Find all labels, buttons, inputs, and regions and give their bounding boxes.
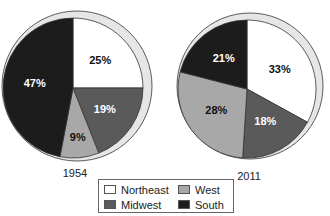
legend-swatch-northeast: [104, 185, 116, 194]
data-label-south: 21%: [213, 52, 235, 64]
legend-label: South: [195, 199, 224, 211]
legend-item-midwest: Midwest: [104, 197, 178, 212]
legend-item-south: South: [178, 197, 238, 212]
legend: Northeast West Midwest South: [98, 179, 234, 213]
legend-swatch-south: [178, 200, 190, 209]
legend-label: Midwest: [121, 199, 161, 211]
data-label-northeast: 25%: [89, 54, 111, 66]
pie-1954: 25%19%9%47%: [2, 11, 152, 161]
legend-label: West: [195, 184, 220, 196]
data-label-northeast: 33%: [269, 63, 291, 75]
data-label-midwest: 19%: [94, 103, 116, 115]
data-label-midwest: 18%: [254, 115, 276, 127]
legend-item-west: West: [178, 182, 238, 197]
legend-swatch-midwest: [104, 200, 116, 209]
year-label-1954: 1954: [63, 167, 87, 179]
legend-swatch-west: [178, 185, 190, 194]
data-label-south: 47%: [24, 77, 46, 89]
year-label-2011: 2011: [237, 170, 261, 182]
pie-2011: 33%18%28%21%: [177, 13, 323, 159]
data-label-west: 9%: [70, 131, 86, 143]
data-label-west: 28%: [205, 104, 227, 116]
legend-label: Northeast: [121, 184, 169, 196]
legend-item-northeast: Northeast: [104, 182, 178, 197]
